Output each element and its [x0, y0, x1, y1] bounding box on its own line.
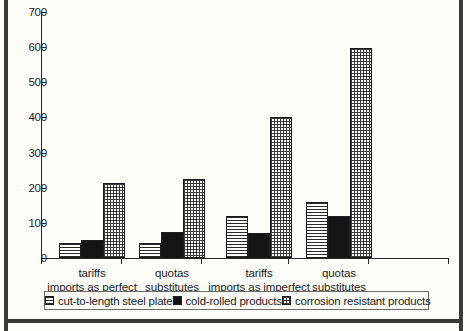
bar-g2-corrosion[interactable] [183, 179, 205, 258]
plot-area: 0 100 200 300 400 500 600 700 [41, 12, 449, 258]
bar-g4-corrosion[interactable] [350, 48, 372, 258]
legend-swatch-hlines-icon [45, 296, 54, 305]
legend-label-corrosion-resistant: corrosion resistant products [295, 295, 431, 307]
x-label-group2-line1: quotas [132, 267, 212, 279]
bar-g1-cut-to-length[interactable] [59, 243, 81, 258]
bar-g3-cut-to-length[interactable] [226, 216, 248, 259]
x-tick-mark-4 [368, 259, 369, 264]
x-label-group1-line1: tariffs [52, 267, 132, 279]
legend-item-cold-rolled[interactable]: cold-rolled products [173, 295, 282, 307]
bar-g2-cold-rolled[interactable] [161, 232, 183, 258]
bar-g1-corrosion[interactable] [103, 183, 125, 258]
bar-g2-cut-to-length[interactable] [139, 243, 161, 258]
page-border-bottom [4, 319, 463, 323]
bar-chart-figure: 0 100 200 300 400 500 600 700 [8, 0, 459, 319]
legend-label-cold-rolled: cold-rolled products [186, 295, 282, 307]
legend-swatch-dots-icon [282, 296, 291, 305]
legend-item-corrosion-resistant[interactable]: corrosion resistant products [282, 295, 431, 307]
x-tick-mark-0 [41, 259, 42, 264]
bar-g4-cold-rolled[interactable] [328, 216, 350, 259]
x-tick-mark-3 [288, 259, 289, 264]
x-label-group4-line1: quotas [299, 267, 379, 279]
bar-g4-cut-to-length[interactable] [306, 202, 328, 258]
bar-g1-cold-rolled[interactable] [81, 240, 103, 258]
legend-label-cut-to-length: cut-to-length steel plate [58, 295, 173, 307]
bar-g3-corrosion[interactable] [270, 117, 292, 258]
x-axis-line [41, 258, 449, 259]
page-border-right [459, 0, 463, 331]
bars-layer [41, 12, 449, 258]
bar-g3-cold-rolled[interactable] [248, 233, 270, 258]
legend-swatch-solid-icon [173, 296, 182, 305]
x-label-group3-line1: tariffs [219, 267, 299, 279]
chart-legend: cut-to-length steel plate cold-rolled pr… [44, 291, 429, 310]
x-tick-mark-5 [448, 259, 449, 264]
legend-item-cut-to-length[interactable]: cut-to-length steel plate [45, 295, 173, 307]
x-tick-mark-2 [201, 259, 202, 264]
x-tick-mark-1 [121, 259, 122, 264]
